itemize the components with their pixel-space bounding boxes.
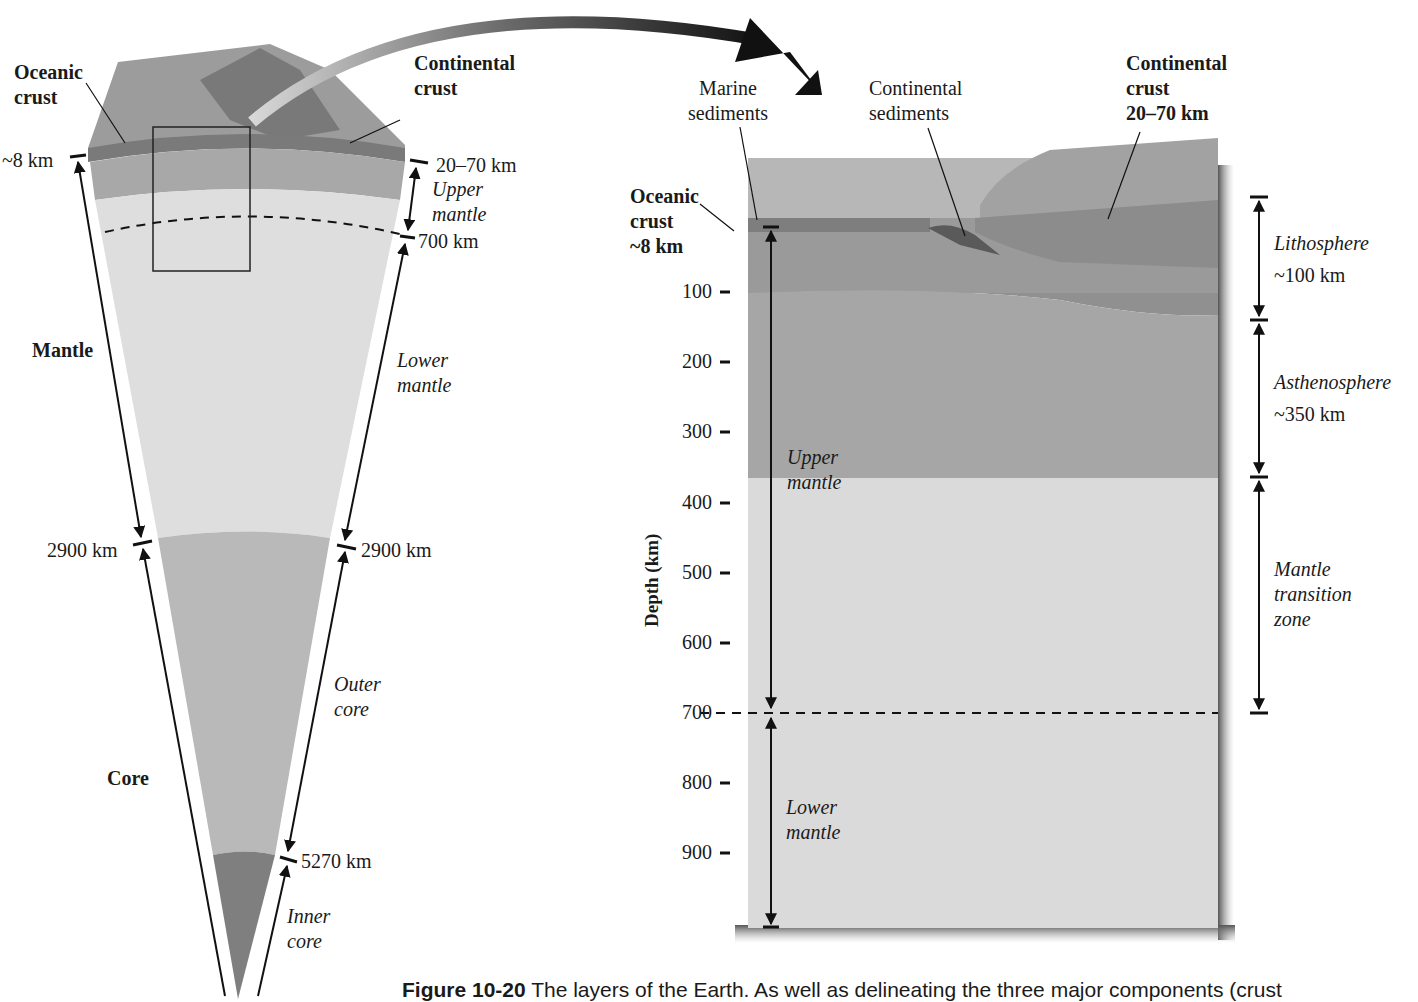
label-depth-2900-left: 2900 km: [47, 538, 118, 563]
label-oceanic-crust-detail: Oceanic crust ~8 km: [630, 184, 699, 259]
y-tick: 400: [662, 491, 712, 514]
label-oceanic-depth: ~8 km: [2, 148, 53, 173]
label-lower-mantle-detail: Lower mantle: [786, 795, 840, 845]
label-continental-crust: Continental crust: [414, 51, 515, 101]
figure-caption: Figure 10-20 The layers of the Earth. As…: [402, 978, 1282, 1002]
caption-text: The layers of the Earth. As well as deli…: [526, 978, 1282, 1001]
label-oceanic-crust: Oceanic crust: [14, 60, 83, 110]
outer-core-layer: [158, 532, 330, 856]
label-lower-mantle: Lower mantle: [397, 348, 451, 398]
label-marine-sediments: Marine sediments: [688, 76, 768, 126]
y-tick: 600: [662, 631, 712, 654]
label-upper-mantle: Upper mantle: [432, 177, 486, 227]
label-asthenosphere: Asthenosphere: [1274, 370, 1391, 395]
label-inner-core: Inner core: [287, 904, 330, 954]
transition-zone-layer: [748, 478, 1218, 928]
label-continental-sediments: Continental sediments: [869, 76, 962, 126]
upper-mantle-span-arrow: [408, 168, 416, 230]
label-continental-crust-detail: Continental crust 20–70 km: [1126, 51, 1227, 126]
label-depth-2900-right: 2900 km: [361, 538, 432, 563]
label-upper-mantle-detail: Upper mantle: [787, 445, 841, 495]
label-outer-core: Outer core: [334, 672, 381, 722]
y-tick: 900: [662, 841, 712, 864]
label-continental-depth: 20–70 km: [436, 153, 517, 178]
label-lithosphere: Lithosphere: [1274, 231, 1369, 256]
y-tick: 200: [662, 350, 712, 373]
y-tick: 500: [662, 561, 712, 584]
lower-mantle-layer: [95, 189, 400, 538]
label-asthenosphere-depth: ~350 km: [1274, 402, 1345, 427]
label-transition-zone: Mantle transition zone: [1274, 557, 1352, 632]
label-core: Core: [107, 766, 149, 791]
label-lithosphere-depth: ~100 km: [1274, 263, 1345, 288]
label-depth-700: 700 km: [418, 229, 479, 254]
y-axis-label: Depth (km): [641, 534, 663, 627]
y-tick: 700: [662, 701, 712, 724]
label-mantle: Mantle: [32, 338, 93, 363]
y-tick: 300: [662, 420, 712, 443]
oceanic-crust-layer: [748, 218, 930, 232]
y-tick: 100: [662, 280, 712, 303]
caption-label: Figure 10-20: [402, 978, 526, 1001]
y-tick: 800: [662, 771, 712, 794]
label-depth-5270: 5270 km: [301, 849, 372, 874]
